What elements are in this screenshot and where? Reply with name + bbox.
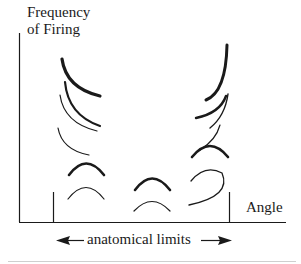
left-arc-4-thin (58, 128, 89, 155)
y-axis-label-line2: of Firing (27, 21, 90, 38)
anatomical-limits-annotation: anatomical limits (0, 230, 301, 250)
right-dome-heavy (192, 146, 228, 157)
x-axis-label: Angle (246, 199, 283, 216)
left-arc-1-heavy (62, 59, 100, 96)
center-dome-thin (134, 202, 170, 212)
right-arc-1-heavy (206, 45, 227, 100)
center-dome-heavy (135, 179, 170, 191)
right-hook-thin (189, 170, 224, 205)
y-axis-label: Frequency of Firing (27, 4, 90, 38)
left-dome-thin (68, 188, 104, 200)
y-axis-label-line1: Frequency (27, 4, 90, 21)
left-dome-heavy (69, 164, 104, 176)
firing-frequency-diagram: Frequency of Firing Angle anatomical lim… (0, 0, 301, 264)
bottom-separator (8, 261, 296, 262)
diagram-canvas (0, 0, 301, 264)
anatomical-limits-label: anatomical limits (87, 230, 191, 248)
